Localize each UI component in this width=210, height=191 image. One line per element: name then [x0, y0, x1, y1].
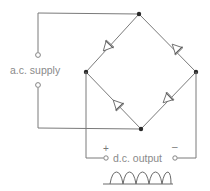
- node-top: [137, 12, 141, 16]
- bridge-edges: [86, 14, 196, 129]
- rectified-waveform-icon: [103, 172, 173, 184]
- ac-terminal-top: [36, 53, 41, 58]
- diode-lower-right-icon: [159, 92, 174, 107]
- dc-positive-wire: [86, 72, 104, 158]
- diode-upper-left-icon: [99, 40, 114, 55]
- dc-terminal-positive: [104, 156, 108, 160]
- diode-upper-right-icon: [168, 40, 183, 55]
- ac-top-wire: [38, 13, 139, 52]
- negative-sign: –: [172, 141, 178, 152]
- positive-sign: +: [103, 143, 109, 154]
- bridge-rectifier-diagram: a.c. supply d.c. output + –: [0, 0, 210, 191]
- dc-negative-wire: [177, 72, 196, 158]
- ac-supply-label: a.c. supply: [10, 64, 61, 76]
- node-bottom: [139, 127, 143, 131]
- dc-output-label: d.c. output: [113, 152, 162, 164]
- junction-nodes: [84, 12, 198, 131]
- ac-terminal-bottom: [36, 83, 41, 88]
- dc-terminal-negative: [173, 156, 177, 160]
- ac-bottom-wire: [38, 88, 141, 129]
